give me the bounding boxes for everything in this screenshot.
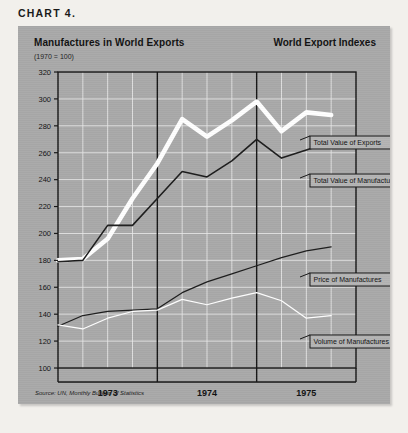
y-axis-tick-label: 200 bbox=[38, 229, 51, 238]
y-axis-tick-label: 300 bbox=[38, 95, 51, 104]
series-callout-label: Price of Manufactures bbox=[314, 276, 383, 283]
series-line bbox=[58, 293, 331, 329]
y-axis-ticks: 100120140160180200220240260280300320 bbox=[38, 68, 58, 373]
y-axis-tick-label: 320 bbox=[38, 68, 51, 77]
series-callout: Total Value of Manufactures bbox=[300, 174, 390, 187]
series-callout-label: Total Value of Exports bbox=[314, 139, 382, 147]
series-callout: Price of Manufactures bbox=[300, 273, 390, 286]
series-callouts: Total Value of ExportsTotal Value of Man… bbox=[300, 136, 390, 348]
series-callout: Volume of Manufactures bbox=[300, 335, 390, 348]
y-axis-tick-label: 100 bbox=[38, 364, 51, 373]
y-axis-tick-label: 260 bbox=[38, 149, 51, 158]
y-axis-tick-label: 220 bbox=[38, 202, 51, 211]
x-axis-tick-label: 1973 bbox=[98, 388, 118, 398]
chart-number-label: CHART 4. bbox=[18, 7, 76, 19]
data-series bbox=[58, 102, 331, 329]
series-callout: Total Value of Exports bbox=[300, 136, 390, 149]
y-axis-tick-label: 240 bbox=[38, 175, 51, 184]
grid-lines bbox=[58, 72, 356, 368]
y-axis-tick-label: 140 bbox=[38, 310, 51, 319]
y-axis-tick-label: 120 bbox=[38, 337, 51, 346]
series-callout-label: Volume of Manufactures bbox=[314, 338, 390, 345]
y-axis-tick-label: 160 bbox=[38, 283, 51, 292]
y-axis-tick-label: 280 bbox=[38, 122, 51, 131]
series-callout-label: Total Value of Manufactures bbox=[314, 177, 391, 184]
plot-area: 100120140160180200220240260280300320 197… bbox=[18, 26, 390, 404]
x-axis-tick-label: 1974 bbox=[197, 388, 217, 398]
chart-panel: Manufactures in World Exports (1970 = 10… bbox=[18, 26, 390, 404]
x-axis-tick-label: 1975 bbox=[296, 388, 316, 398]
chart-svg: 100120140160180200220240260280300320 197… bbox=[18, 26, 390, 404]
x-axis-ticks: 197319741975 bbox=[98, 388, 317, 398]
y-axis-tick-label: 180 bbox=[38, 256, 51, 265]
